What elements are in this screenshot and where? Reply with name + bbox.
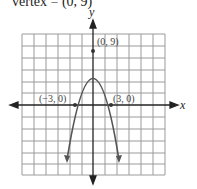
curve-arrow-left (64, 155, 70, 163)
right-root-label: (3, 0) (113, 93, 135, 105)
x-axis-label: x (179, 98, 186, 112)
y-axis-label: y (88, 5, 95, 19)
vertex-label: (0, 9) (97, 36, 119, 48)
root-point-left (73, 103, 77, 107)
y-axis (90, 20, 96, 184)
vertex-point (91, 49, 95, 53)
parabola-graph: x y (0, 9) (−3, 0) (3, 0) (0, 0, 197, 189)
left-root-label: (−3, 0) (39, 93, 66, 105)
